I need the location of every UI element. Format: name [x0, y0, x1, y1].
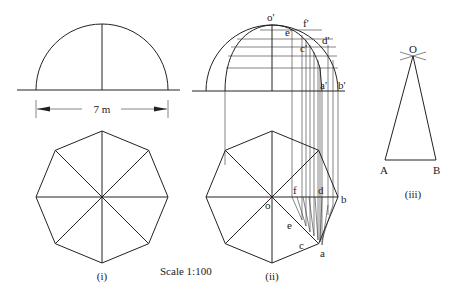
- side-OB: [413, 56, 436, 160]
- scale-label: Scale 1:100: [160, 265, 212, 277]
- caption-iii: (iii): [405, 188, 422, 201]
- label-o: o: [265, 199, 271, 211]
- label-b: b: [341, 193, 347, 205]
- label-d: d: [318, 184, 324, 196]
- label-b-prime: b': [338, 79, 346, 91]
- label-A: A: [380, 164, 388, 176]
- label-e-prime: e': [285, 26, 292, 38]
- dimension-label: 7 m: [94, 103, 111, 115]
- label-c-prime: c': [300, 42, 307, 54]
- side-OA: [385, 56, 413, 160]
- label-e: e: [287, 219, 292, 231]
- plan-ii-octagon: o f d b e c a: [206, 131, 347, 263]
- arrow-right-icon: [154, 107, 167, 112]
- elevation-i: [17, 24, 180, 90]
- label-f: f: [293, 184, 297, 196]
- figure-i: 7 m (i): [17, 24, 180, 283]
- label-o-prime: o': [267, 11, 275, 23]
- caption-ii: (ii): [265, 270, 279, 283]
- drawing-canvas: 7 m (i) Scale 1:100: [0, 0, 455, 293]
- construction-line: [322, 205, 328, 245]
- figure-ii: o' e' f' c' d' a' b' o f d b: [192, 11, 347, 283]
- dimension-i: 7 m: [36, 100, 168, 118]
- construction-line: [303, 197, 310, 232]
- label-a: a: [320, 247, 325, 259]
- label-O: O: [409, 43, 417, 55]
- label-d-prime: d': [322, 34, 330, 46]
- label-c: c: [299, 239, 304, 251]
- construction-line: [315, 197, 318, 240]
- label-f-prime: f': [303, 17, 309, 29]
- arrow-left-icon: [37, 107, 50, 112]
- plan-i-octagon: [36, 131, 168, 263]
- label-B: B: [433, 164, 440, 176]
- label-a-prime: a': [320, 79, 327, 91]
- caption-i: (i): [97, 270, 108, 283]
- figure-iii: O A B (iii): [380, 43, 440, 201]
